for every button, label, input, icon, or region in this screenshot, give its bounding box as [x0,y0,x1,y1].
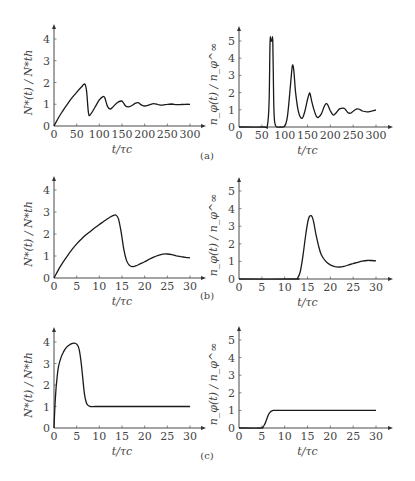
y-tick-label: 0 [43,272,50,285]
y-tick-label: 1 [228,255,235,268]
panel-label-a: (a) [200,150,214,161]
chart-c-right: 051015202530012345t/τcn_φ(t) / n_φ^∞ [207,326,393,458]
y-tick-label: 4 [228,352,235,365]
y-tick-label: 0 [228,422,235,435]
x-axis-label: t/τc [297,296,317,309]
y-tick-label: 5 [228,35,235,48]
y-axis-arrow-icon [237,26,241,31]
y-axis-label: N*(t) / N*th [22,352,35,418]
y-tick-label: 0 [43,120,50,133]
x-tick-label: 100 [274,129,295,142]
y-tick-label: 5 [228,334,235,347]
data-curve [54,343,190,428]
y-tick-label: 2 [228,238,235,251]
x-tick-label: 10 [278,430,292,443]
x-tick-label: 150 [297,129,318,142]
y-tick-label: 4 [228,203,235,216]
y-tick-label: 2 [43,379,50,392]
x-tick-label: 15 [115,280,129,293]
y-tick-label: 1 [43,401,50,414]
chart-c-left: 05101520253001234t/τcN*(t) / N*th [22,327,206,458]
x-axis-arrow-icon [201,276,206,280]
x-axis-arrow-icon [201,426,206,430]
x-tick-label: 15 [301,430,315,443]
data-curve [54,215,190,278]
y-tick-label: 4 [228,52,235,65]
x-tick-label: 5 [258,281,265,294]
x-tick-label: 10 [92,430,106,443]
x-tick-label: 10 [278,281,292,294]
panel-label-c: (c) [200,450,214,461]
data-curve [239,410,376,428]
x-tick-label: 20 [323,430,337,443]
x-axis-arrow-icon [388,426,393,430]
x-tick-label: 10 [92,280,106,293]
y-tick-label: 2 [228,387,235,400]
y-axis-label: N*(t) / N*th [22,201,35,267]
y-axis-label: n_φ(t) / n_φ^∞ [207,43,220,126]
plots-container: 05010015020025030001234t/τcN*(t) / N*th0… [22,24,393,458]
y-axis-arrow-icon [52,24,56,29]
x-tick-label: 0 [236,281,243,294]
y-axis-arrow-icon [237,326,241,331]
x-axis-label: t/τc [112,445,132,458]
chart-a-right: 050100150200250300012345t/τcn_φ(t) / n_φ… [207,26,393,157]
y-tick-label: 2 [43,228,50,241]
y-tick-label: 1 [43,250,50,263]
x-tick-label: 150 [112,128,133,141]
x-axis-label: t/τc [297,144,317,157]
y-tick-label: 0 [43,422,50,435]
y-tick-label: 3 [43,206,50,219]
x-tick-label: 30 [369,430,383,443]
x-tick-label: 25 [346,430,360,443]
data-curve [54,84,190,126]
figure: 05010015020025030001234t/τcN*(t) / N*th0… [0,0,415,481]
x-tick-label: 5 [73,280,80,293]
x-tick-label: 20 [138,280,152,293]
x-axis-label: t/τc [297,445,317,458]
x-tick-label: 20 [323,281,337,294]
y-tick-label: 2 [43,77,50,90]
y-axis-arrow-icon [237,177,241,182]
x-axis-label: t/τc [112,143,132,156]
x-tick-label: 5 [73,430,80,443]
x-tick-label: 5 [258,430,265,443]
x-tick-label: 25 [160,430,174,443]
x-axis-arrow-icon [201,124,206,128]
y-axis-arrow-icon [52,176,56,181]
chart-b-right: 051015202530012345t/τcn_φ(t) / n_φ^∞ [207,177,393,309]
x-tick-label: 0 [236,129,243,142]
data-curve [239,216,376,280]
x-tick-label: 30 [183,280,197,293]
y-tick-label: 0 [228,121,235,134]
x-tick-label: 50 [70,128,84,141]
x-tick-label: 300 [180,128,201,141]
y-tick-label: 1 [228,404,235,417]
x-tick-label: 200 [320,129,341,142]
panel-label-b: (b) [200,290,214,301]
x-tick-label: 30 [369,281,383,294]
y-tick-label: 4 [43,184,50,197]
y-tick-label: 3 [228,369,235,382]
x-tick-label: 250 [343,129,364,142]
y-tick-label: 0 [228,273,235,286]
y-tick-label: 3 [228,69,235,82]
y-tick-label: 2 [228,87,235,100]
data-curve [239,37,376,129]
chart-b-left: 05101520253001234t/τcN*(t) / N*th [22,176,206,308]
y-axis-arrow-icon [52,327,56,332]
x-tick-label: 25 [346,281,360,294]
y-tick-label: 3 [43,55,50,68]
y-tick-label: 4 [43,336,50,349]
x-tick-label: 200 [134,128,155,141]
x-tick-label: 0 [236,430,243,443]
x-axis-arrow-icon [388,277,393,281]
x-axis-arrow-icon [388,125,393,129]
x-tick-label: 20 [138,430,152,443]
x-axis-label: t/τc [112,295,132,308]
y-tick-label: 1 [43,98,50,111]
chart-a-left: 05010015020025030001234t/τcN*(t) / N*th [22,24,206,156]
x-tick-label: 15 [301,281,315,294]
x-tick-label: 50 [255,129,269,142]
x-tick-label: 25 [160,280,174,293]
